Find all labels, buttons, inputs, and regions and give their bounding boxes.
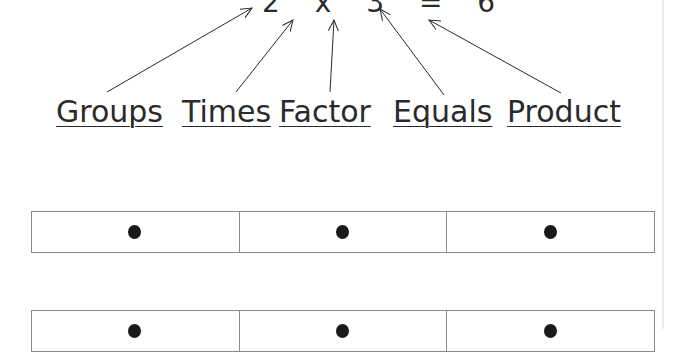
arrow-product [429, 20, 561, 93]
row-cell [240, 212, 448, 252]
row-cell [447, 212, 654, 252]
dot-icon [544, 324, 557, 338]
label-product: Product [507, 94, 621, 129]
row-cell [447, 311, 654, 351]
label-equals: Equals [393, 94, 492, 129]
dot-row-1 [31, 211, 655, 253]
label-times: Times [182, 94, 271, 129]
dot-row-2 [31, 310, 655, 352]
dot-icon [336, 324, 349, 338]
arrow-groups [107, 8, 252, 92]
row-cell [32, 311, 240, 351]
dot-icon [128, 225, 141, 239]
row-cell [240, 311, 448, 351]
dot-icon [544, 225, 557, 239]
label-factor: Factor [279, 94, 371, 129]
label-groups: Groups [56, 94, 163, 129]
arrow-factor [330, 20, 334, 92]
dot-icon [128, 324, 141, 338]
row-cell [32, 212, 240, 252]
dot-icon [336, 225, 349, 239]
arrow-times [236, 20, 293, 92]
arrow-equals [380, 9, 444, 95]
